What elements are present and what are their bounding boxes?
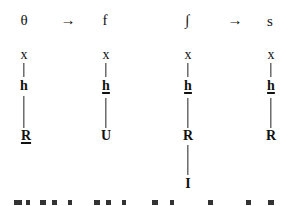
tree-node-h: h <box>184 79 192 93</box>
tree-node-x: x <box>268 48 275 62</box>
tree-node-r: R <box>21 129 31 143</box>
tree-branch <box>23 63 24 77</box>
source-symbol-theta: θ <box>20 13 27 28</box>
tree-branch <box>187 145 188 175</box>
tree-branch <box>270 98 271 128</box>
tree-branch <box>187 98 188 128</box>
tree-node-x: x <box>185 48 192 62</box>
tree-node-r: R <box>183 129 193 143</box>
source-symbol-esh: ∫ <box>185 13 189 28</box>
arrow-icon: → <box>61 13 76 28</box>
target-symbol-s: s <box>267 14 273 29</box>
tree-node-h: h <box>20 79 28 93</box>
tree-branch <box>270 63 271 77</box>
tree-branch <box>187 63 188 77</box>
target-symbol-f: f <box>103 13 108 28</box>
tree-node-x: x <box>103 48 110 62</box>
tree-node-i: I <box>185 177 190 191</box>
tree-node-x: x <box>21 48 28 62</box>
cut-off-text-line <box>0 200 293 206</box>
tree-node-r: R <box>266 129 276 143</box>
tree-branch <box>105 98 106 128</box>
tree-branch <box>105 63 106 77</box>
tree-node-h: h <box>102 79 110 93</box>
arrow-icon: → <box>228 13 243 28</box>
tree-branch <box>23 96 24 128</box>
tree-node-u: U <box>101 129 111 143</box>
tree-node-h: h <box>267 79 275 93</box>
